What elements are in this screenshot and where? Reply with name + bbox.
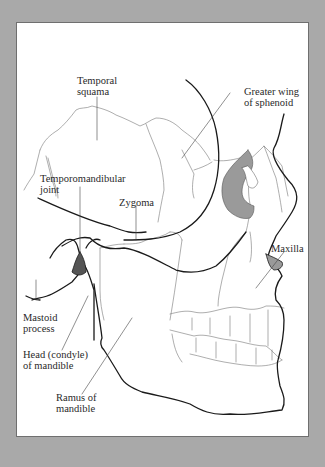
label-zygoma: Zygoma — [119, 198, 154, 209]
suture-lines — [24, 106, 288, 366]
label-greater-wing-of-sphenoid: Greater wing of sphenoid — [244, 87, 299, 108]
label-ramus-of-mandible: Ramus of mandible — [56, 393, 97, 414]
tmj-shading — [72, 252, 86, 275]
label-temporal-squama: Temporal squama — [77, 76, 117, 97]
label-head-condyle-of-mandible: Head (condyle) of mandible — [23, 350, 88, 371]
label-temporomandibular-joint: Temporomandibular joint — [40, 174, 126, 195]
maxilla-shading — [266, 254, 283, 270]
skull-lateral-diagram — [0, 0, 325, 467]
label-mastoid-process: Mastoid process — [23, 313, 57, 334]
label-maxilla: Maxilla — [271, 244, 304, 255]
